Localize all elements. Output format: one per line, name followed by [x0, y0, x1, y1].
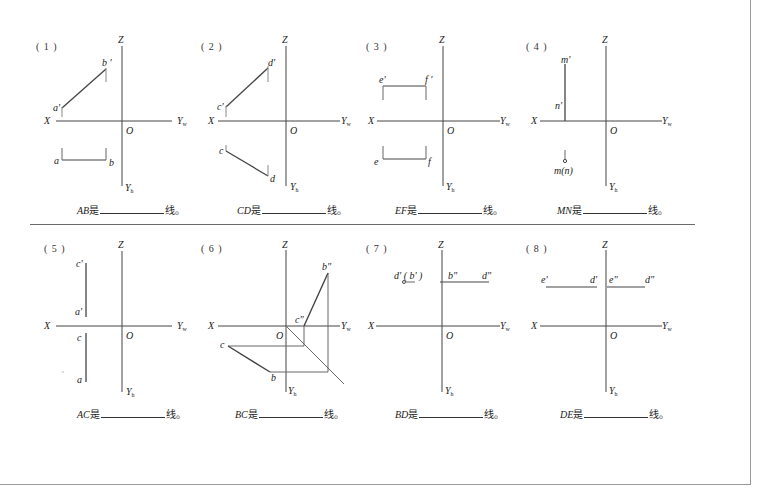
yh-axis-label: Yh — [288, 386, 297, 399]
point-label: c — [77, 333, 81, 343]
panel-1-drawing — [56, 46, 172, 186]
point-label: c' — [217, 102, 224, 112]
point-label: f ' — [425, 75, 432, 85]
point-label: e — [374, 157, 378, 167]
yh-axis-label: Yh — [125, 183, 134, 196]
yh-axis-label: Yh — [609, 386, 618, 399]
point-label: a' — [75, 307, 82, 317]
worksheet: ( 1 ) Z X O Yw Yh a' b ' a b AB是线。 ( 2 )… — [0, 0, 775, 495]
x-axis-label: X — [44, 321, 50, 331]
z-axis-label: Z — [438, 240, 444, 250]
point-label: m' — [561, 55, 570, 65]
x-axis-label: X — [368, 116, 374, 126]
point-label: d" — [645, 275, 654, 285]
point-label: d' — [590, 275, 597, 285]
origin-label: O — [446, 331, 453, 341]
yh-axis-label: Yh — [126, 387, 135, 400]
yw-axis-label: Yw — [177, 321, 187, 334]
yw-axis-label: Yw — [341, 321, 351, 334]
x-axis-label: X — [208, 116, 214, 126]
z-axis-label: Z — [602, 35, 608, 45]
point-label: a — [77, 375, 82, 385]
point-label: f — [428, 157, 431, 167]
panel-3-answer: EF是线。 — [395, 204, 503, 217]
point-label: m(n) — [554, 166, 573, 176]
yh-axis-label: Yh — [445, 386, 454, 399]
x-axis-label: X — [531, 116, 537, 126]
panel-8-number: ( 8 ) — [526, 244, 548, 254]
point-label: b — [109, 158, 114, 168]
point-label: e' — [541, 275, 548, 285]
panel-2-number: ( 2 ) — [201, 42, 223, 52]
origin-label: O — [276, 331, 283, 341]
yw-axis-label: Yw — [662, 321, 672, 334]
panel-7-number: ( 7 ) — [366, 244, 388, 254]
answer-blank[interactable] — [419, 408, 483, 418]
yw-axis-label: Yw — [500, 321, 510, 334]
panel-8-drawing — [540, 250, 662, 392]
point-label: c — [220, 340, 224, 350]
point-label: c' — [76, 259, 83, 269]
origin-label: O — [290, 126, 297, 136]
point-label: b" — [322, 262, 331, 272]
answer-blank[interactable] — [584, 408, 648, 418]
origin-label: O — [126, 331, 133, 341]
point-label: n' — [555, 101, 562, 111]
answer-blank[interactable] — [262, 204, 326, 214]
yw-axis-label: Yw — [500, 116, 510, 129]
point-label: b" — [448, 271, 457, 281]
panel-2-answer: CD是线。 — [237, 204, 347, 217]
answer-blank[interactable] — [101, 408, 165, 418]
panel-5-number: ( 5 ) — [44, 244, 66, 254]
origin-label: O — [447, 126, 454, 136]
x-axis-label: X — [44, 116, 50, 126]
point-label: c" — [295, 315, 304, 325]
answer-blank[interactable] — [583, 204, 647, 214]
panel-2-drawing — [218, 46, 340, 186]
point-label: e' — [379, 75, 386, 85]
front-projection-ab — [62, 69, 106, 108]
answer-blank[interactable] — [259, 408, 323, 418]
answer-blank[interactable] — [418, 204, 482, 214]
origin-label: O — [126, 126, 133, 136]
point-label: d' ( b' ) — [394, 271, 422, 281]
yh-axis-label: Yh — [446, 182, 455, 195]
panel-8-answer: DE是线。 — [560, 408, 669, 421]
panel-5-drawing — [56, 251, 172, 392]
z-axis-label: Z — [439, 35, 445, 45]
yw-axis-label: Yw — [662, 116, 672, 129]
x-axis-label: X — [208, 321, 214, 331]
panel-4-answer: MN是线。 — [557, 204, 668, 217]
panel-1-number: ( 1 ) — [36, 42, 58, 52]
z-axis-label: Z — [282, 35, 288, 45]
z-axis-label: Z — [118, 35, 124, 45]
z-axis-label: Z — [602, 240, 608, 250]
panel-7-answer: BD是线。 — [395, 408, 504, 421]
origin-label: O — [610, 331, 617, 341]
panel-6-number: ( 6 ) — [201, 244, 223, 254]
point-label: d — [270, 174, 275, 184]
z-axis-label: Z — [282, 240, 288, 250]
point-label: b ' — [102, 58, 112, 68]
point-label: e" — [609, 275, 618, 285]
panel-4-number: ( 4 ) — [526, 42, 548, 52]
x-axis-label: X — [368, 321, 374, 331]
origin-label: O — [610, 126, 617, 136]
panel-3-number: ( 3 ) — [366, 42, 388, 52]
point-label: d' — [268, 58, 275, 68]
z-axis-label: Z — [118, 240, 124, 250]
point-label: b — [271, 373, 276, 383]
point-label: c — [219, 146, 223, 156]
x-axis-label: X — [531, 321, 537, 331]
yw-axis-label: Yw — [177, 116, 187, 129]
panel-3-drawing — [377, 46, 500, 186]
answer-blank[interactable] — [100, 204, 164, 214]
point-label: d" — [482, 271, 491, 281]
yh-axis-label: Yh — [290, 182, 299, 195]
panel-6-answer: BC是线。 — [235, 408, 344, 421]
panel-5-answer: AC是线。 — [77, 408, 186, 421]
panel-1-answer: AB是线。 — [77, 204, 185, 217]
point-label: a' — [53, 103, 60, 113]
yh-axis-label: Yh — [609, 182, 618, 195]
yw-axis-label: Yw — [341, 116, 351, 129]
